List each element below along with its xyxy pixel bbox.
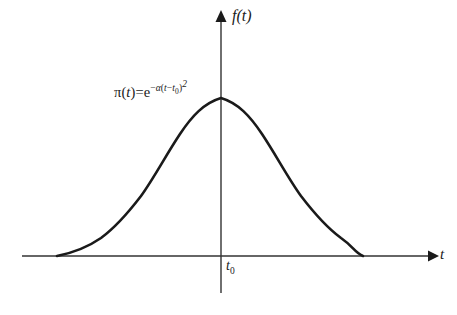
exponent-power: 2 — [182, 79, 187, 89]
x-axis-arrowhead — [428, 251, 439, 262]
y-axis-close-paren: ) — [246, 7, 251, 24]
y-axis-arrowhead — [216, 10, 227, 22]
gaussian-curve — [57, 98, 363, 256]
t0-subscript: 0 — [230, 266, 235, 276]
gaussian-figure: π(t)=e−α(t−t0)2 f(t) t t0 — [0, 0, 457, 315]
center-tick-label: t0 — [226, 258, 235, 276]
formula-equals: = — [135, 84, 143, 100]
formula-exponent: −α(t−t0)2 — [150, 83, 187, 93]
x-axis-label: t — [440, 246, 444, 263]
y-axis-label: f(t) — [232, 7, 252, 25]
formula-label: π(t)=e−α(t−t0)2 — [114, 79, 187, 101]
